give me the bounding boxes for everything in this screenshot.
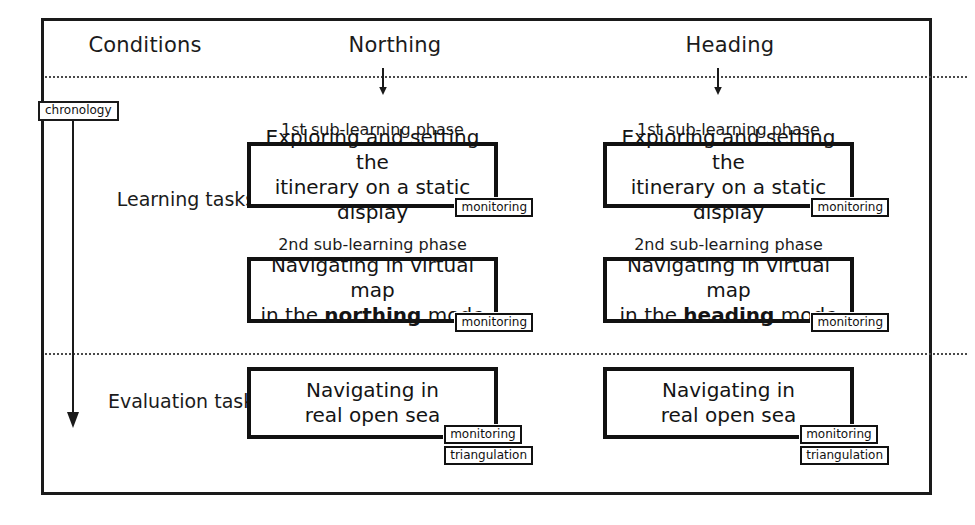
phase-caption: 2nd sub-learning phase [603, 235, 854, 254]
tag-monitoring: monitoring [811, 198, 889, 217]
task-text-line2-pre: in the [620, 303, 684, 327]
task-box-northing-first-phase[interactable]: Exploring and setting the itinerary on a… [247, 142, 498, 208]
tag-monitoring: monitoring [444, 425, 522, 444]
tag-stack: monitoring triangulation [800, 425, 889, 465]
task-text-line1: Navigating in virtual map [627, 253, 830, 302]
tag-triangulation: triangulation [444, 446, 533, 465]
task-text-line1: Navigating in [306, 378, 439, 402]
task-text-mode-emphasis: northing [324, 303, 421, 327]
separator-middle-dotted [45, 353, 967, 355]
cell-heading-evaluation: Navigating in real open sea monitoring t… [603, 367, 854, 439]
task-box-northing-evaluation[interactable]: Navigating in real open sea monitoring t… [247, 367, 498, 439]
tag-stack: monitoring [811, 198, 889, 217]
phase-caption: 2nd sub-learning phase [247, 235, 498, 254]
down-arrow-icon-northing [376, 68, 390, 96]
tag-stack: monitoring triangulation [444, 425, 533, 465]
tag-monitoring: monitoring [800, 425, 878, 444]
separator-top-dotted [45, 76, 967, 78]
cell-northing-evaluation: Navigating in real open sea monitoring t… [247, 367, 498, 439]
down-arrow-icon-heading [711, 68, 725, 96]
tag-monitoring: monitoring [455, 198, 533, 217]
cell-heading-first-phase: 1st sub-learning phase Exploring and set… [603, 120, 854, 208]
task-text-line2: itinerary on a static display [275, 175, 471, 224]
column-header-northing: Northing [300, 33, 490, 57]
column-header-conditions: Conditions [60, 33, 230, 57]
tag-stack: monitoring [811, 313, 889, 332]
task-text-line1: Navigating in virtual map [271, 253, 474, 302]
task-text-mode-emphasis: heading [683, 303, 774, 327]
cell-northing-first-phase: 1st sub-learning phase Exploring and set… [247, 120, 498, 208]
task-box-heading-second-phase[interactable]: Navigating in virtual map in the heading… [603, 257, 854, 323]
tag-monitoring: monitoring [811, 313, 889, 332]
task-text-line1: Exploring and setting the [266, 125, 480, 174]
task-text-line2: real open sea [305, 403, 441, 427]
task-text-line2-pre: in the [261, 303, 325, 327]
task-text-line1: Navigating in [662, 378, 795, 402]
task-text-line2: real open sea [661, 403, 797, 427]
task-text-line2: itinerary on a static display [631, 175, 827, 224]
task-box-northing-second-phase[interactable]: Navigating in virtual map in the northin… [247, 257, 498, 323]
column-header-heading: Heading [635, 33, 825, 57]
cell-northing-second-phase: 2nd sub-learning phase Navigating in vir… [247, 235, 498, 323]
chronology-label: chronology [38, 101, 119, 121]
task-box-heading-first-phase[interactable]: Exploring and setting the itinerary on a… [603, 142, 854, 208]
tag-stack: monitoring [455, 313, 533, 332]
task-box-heading-evaluation[interactable]: Navigating in real open sea monitoring t… [603, 367, 854, 439]
chronology-down-arrow-icon [62, 114, 84, 430]
tag-stack: monitoring [455, 198, 533, 217]
tag-monitoring: monitoring [455, 313, 533, 332]
tag-triangulation: triangulation [800, 446, 889, 465]
cell-heading-second-phase: 2nd sub-learning phase Navigating in vir… [603, 235, 854, 323]
task-text-line1: Exploring and setting the [622, 125, 836, 174]
